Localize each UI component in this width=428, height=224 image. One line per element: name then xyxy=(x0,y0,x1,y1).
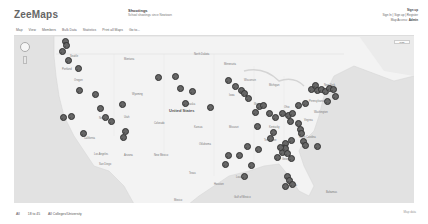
menu-print[interactable]: Print all Maps xyxy=(102,28,123,32)
map-marker-icon[interactable] xyxy=(272,114,277,121)
city-label: Gulf of Mexico xyxy=(234,196,251,199)
map-access: Map Access: Admin xyxy=(382,18,418,23)
menu-bulk-data[interactable]: Bulk Data xyxy=(62,28,77,32)
sign-up-link[interactable]: Sign up xyxy=(407,8,418,12)
city-label: Colorado xyxy=(154,122,165,125)
footer-filters: All 18 to 45 All Colleges/University xyxy=(0,207,428,221)
map-marker-icon[interactable] xyxy=(122,128,127,135)
map-marker-icon[interactable] xyxy=(80,130,85,137)
menu-view[interactable]: View xyxy=(29,28,36,32)
map-marker-icon[interactable] xyxy=(182,100,187,107)
city-label: Mexico xyxy=(174,199,182,202)
map-type-button[interactable]: Map xyxy=(394,40,410,44)
map-marker-icon[interactable] xyxy=(267,135,272,142)
menubar: Map View Members Bulk Data Statistics Pr… xyxy=(0,26,428,34)
map-access-label: Map Access: xyxy=(391,18,408,22)
map-canvas[interactable]: Map SeattlePortlandOregonMontanaNorth Da… xyxy=(14,35,414,203)
city-label: Houston xyxy=(214,183,224,186)
city-label: Virginia xyxy=(304,119,313,122)
city-label: Oklahoma xyxy=(199,143,211,146)
map-marker-icon[interactable] xyxy=(108,118,113,125)
menu-statistics[interactable]: Statistics xyxy=(83,28,97,32)
map-marker-icon[interactable] xyxy=(119,101,124,108)
map-marker-icon[interactable] xyxy=(288,155,293,162)
map-marker-icon[interactable] xyxy=(289,181,294,188)
map-data-attribution: Map data xyxy=(403,210,416,214)
filter-all[interactable]: All xyxy=(16,212,20,216)
map-marker-icon[interactable] xyxy=(225,152,230,159)
map-marker-icon[interactable] xyxy=(102,114,107,121)
menu-members[interactable]: Members xyxy=(42,28,56,32)
map-marker-icon[interactable] xyxy=(298,130,303,137)
zeemaps-logo[interactable]: ZeeMaps xyxy=(14,9,58,20)
header: ZeeMaps Shootings School shootings since… xyxy=(0,0,428,24)
city-label: Missouri xyxy=(229,126,239,129)
map-marker-icon[interactable] xyxy=(222,161,227,168)
map-marker-icon[interactable] xyxy=(287,118,292,125)
pan-control[interactable] xyxy=(20,42,30,52)
map-marker-icon[interactable] xyxy=(266,110,271,117)
map-marker-icon[interactable] xyxy=(282,183,287,190)
map-marker-icon[interactable] xyxy=(177,85,182,92)
map-marker-icon[interactable] xyxy=(68,113,73,120)
city-label: Michigan xyxy=(269,84,279,87)
map-access-value: Admin xyxy=(409,18,418,22)
map-marker-icon[interactable] xyxy=(270,129,275,136)
zoom-slider[interactable] xyxy=(23,56,27,64)
map-marker-icon[interactable] xyxy=(289,110,294,117)
map-marker-icon[interactable] xyxy=(248,162,253,169)
map-marker-icon[interactable] xyxy=(241,173,246,180)
map-marker-icon[interactable] xyxy=(244,143,249,150)
map-marker-icon[interactable] xyxy=(302,142,307,149)
map-marker-icon[interactable] xyxy=(92,91,97,98)
map-marker-icon[interactable] xyxy=(255,146,260,153)
map-marker-icon[interactable] xyxy=(65,57,70,64)
city-label: San Diego xyxy=(99,163,111,166)
map-marker-icon[interactable] xyxy=(97,105,102,112)
map-marker-icon[interactable] xyxy=(279,110,284,117)
filter-colleges[interactable]: All Colleges/University xyxy=(48,212,82,216)
map-marker-icon[interactable] xyxy=(260,102,265,109)
map-marker-icon[interactable] xyxy=(189,88,194,95)
account-panel: Sign up Sign In | Sign up | Register Map… xyxy=(382,8,418,23)
city-label: Arizona xyxy=(124,154,133,157)
map-marker-icon[interactable] xyxy=(295,102,300,109)
map-marker-icon[interactable] xyxy=(236,152,241,159)
filter-age[interactable]: 18 to 45 xyxy=(28,212,40,216)
map-marker-icon[interactable] xyxy=(225,77,230,84)
map-marker-icon[interactable] xyxy=(252,109,257,116)
city-label: North Dakota xyxy=(194,53,209,56)
city-label: Pennsylvania xyxy=(309,100,324,103)
map-marker-icon[interactable] xyxy=(302,100,307,107)
city-label: New Mexico xyxy=(154,154,168,157)
map-marker-icon[interactable] xyxy=(232,83,237,90)
map-marker-icon[interactable] xyxy=(245,95,250,102)
city-label: California xyxy=(84,137,95,140)
map-marker-icon[interactable] xyxy=(324,98,329,105)
city-label: Montana xyxy=(124,58,134,61)
map-marker-icon[interactable] xyxy=(277,144,282,151)
city-label: Ohio xyxy=(284,106,289,109)
map-marker-icon[interactable] xyxy=(254,123,259,130)
map-marker-icon[interactable] xyxy=(330,86,335,93)
map-marker-icon[interactable] xyxy=(155,74,160,81)
city-label: Kansas xyxy=(194,126,203,129)
city-label: Texas xyxy=(189,172,196,175)
country-label: United States xyxy=(169,108,195,113)
city-label: Iowa xyxy=(229,94,234,97)
map-marker-icon[interactable] xyxy=(75,65,80,72)
map-marker-icon[interactable] xyxy=(59,48,64,55)
map-marker-icon[interactable] xyxy=(76,87,81,94)
city-label: Utah xyxy=(124,116,129,119)
menu-map[interactable]: Map xyxy=(16,28,23,32)
city-label: Wisconsin xyxy=(244,79,256,82)
city-label: Portland xyxy=(62,68,72,71)
map-marker-icon[interactable] xyxy=(172,73,177,80)
map-marker-icon[interactable] xyxy=(207,104,212,111)
city-label: Washington xyxy=(314,111,328,114)
map-marker-icon[interactable] xyxy=(332,93,337,100)
map-marker-icon[interactable] xyxy=(60,114,65,121)
map-marker-icon[interactable] xyxy=(120,134,125,141)
menu-goto[interactable]: Go to... xyxy=(129,28,140,32)
map-marker-icon[interactable] xyxy=(314,143,319,150)
